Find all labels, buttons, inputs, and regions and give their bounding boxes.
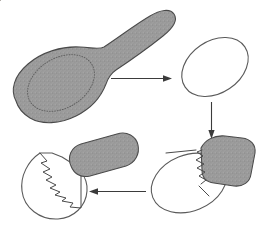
figure-container: Bacterial endospore formation and germin… — [0, 0, 261, 229]
stage-2-plain-ellipse — [171, 25, 260, 108]
stage-4-cracked-shell-with-released-capsule — [22, 133, 139, 219]
spoon-body-shape — [13, 10, 175, 122]
stage-1-spoon-shaped-shaded-cell — [13, 10, 175, 123]
figure-title: Bacterial endospore formation and germin… — [0, 0, 1, 1]
stage-3-emerging-capsule — [201, 136, 255, 186]
plain-ellipse-outline — [171, 25, 260, 108]
stage-3-ellipse-with-emerging-capsule — [142, 136, 255, 224]
arrow-down-stage2-to-stage3 — [208, 102, 214, 139]
arrow-right-stage1-to-stage2 — [111, 75, 172, 81]
arrow-1-head — [163, 75, 172, 81]
stage-4-released-capsule — [69, 133, 138, 176]
diagram-canvas — [0, 0, 261, 229]
figure-caption: Bacterial endospore formation and germin… — [0, 0, 1, 1]
arrow-left-stage3-to-stage4 — [89, 188, 146, 194]
stage-3-shell-rim-upper — [166, 150, 196, 153]
arrow-3-head — [89, 188, 98, 194]
